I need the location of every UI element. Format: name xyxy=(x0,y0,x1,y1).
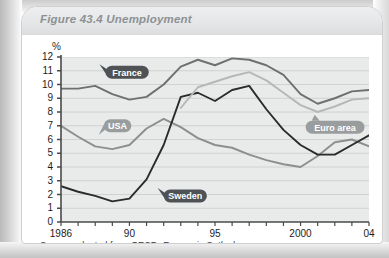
chart-container: % FranceUSASwedenEuro area 1211109876543… xyxy=(22,35,382,244)
page-edge-shadow-left xyxy=(0,0,22,258)
y-tick-label: 0 xyxy=(37,216,53,227)
y-tick-label: 2 xyxy=(37,189,53,200)
source-suffix: . xyxy=(237,240,240,244)
x-tick-label: 2000 xyxy=(289,228,311,239)
y-tick-label: 12 xyxy=(37,51,53,62)
y-tick-label: 8 xyxy=(37,106,53,117)
x-tick-label: 90 xyxy=(124,228,135,239)
y-tick-label: 9 xyxy=(37,92,53,103)
figure-source-note: Source: adapted from OECD, Economic Outl… xyxy=(40,240,240,244)
figure-card: Figure 43.4 Unemployment % FranceUSASwed… xyxy=(21,6,383,244)
y-tick-label: 5 xyxy=(37,147,53,158)
chart-axes xyxy=(22,35,383,244)
y-tick-label: 11 xyxy=(37,65,53,76)
x-tick-label: 04 xyxy=(363,228,374,239)
y-tick-label: 3 xyxy=(37,175,53,186)
y-tick-label: 7 xyxy=(37,120,53,131)
figure-title: Figure 43.4 Unemployment xyxy=(40,13,192,25)
y-tick-label: 1 xyxy=(37,202,53,213)
y-tick-label: 4 xyxy=(37,161,53,172)
axis-lines xyxy=(61,55,369,222)
x-tick-label: 95 xyxy=(209,228,220,239)
y-tick-label: 10 xyxy=(37,79,53,90)
axis-tickmarks xyxy=(57,57,369,226)
source-prefix: Source: adapted from OECD, xyxy=(40,240,163,244)
page-edge-shadow-bottom xyxy=(0,242,389,258)
y-tick-label: 6 xyxy=(37,134,53,145)
source-publication: Economic Outlook xyxy=(163,240,238,244)
x-tick-label: 1986 xyxy=(50,228,72,239)
